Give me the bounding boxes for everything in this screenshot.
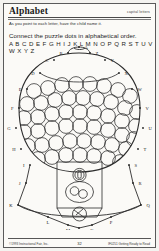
puzzle-dot-g [15, 127, 17, 129]
dot-label-f: F [11, 106, 14, 111]
dot-label-q: Q [147, 203, 151, 208]
puzzle-dot-e [26, 88, 28, 90]
coin-knob [73, 168, 86, 181]
puzzle-dot-w [131, 88, 133, 90]
dot-label-p: P [110, 220, 113, 225]
dot-label-z: Z [96, 51, 99, 56]
dot-label-o: O [90, 228, 94, 231]
puzzle-dot-n [78, 227, 80, 229]
gumball-exit [73, 207, 87, 221]
puzzle-dot-v [139, 107, 141, 109]
dot-label-k: K [9, 203, 13, 208]
puzzle-dot-u [142, 127, 144, 129]
dot-label-h: H [12, 147, 16, 152]
dot-label-j: J [19, 181, 21, 186]
product-code-text: IF0251 Getting Ready to Read [108, 242, 150, 246]
copyright-text: ©1993 Instructional Fair, Inc. [9, 242, 48, 246]
puzzle-dot-b [67, 52, 69, 54]
footer-divider [8, 238, 151, 239]
dot-label-m: M [66, 228, 70, 231]
puzzle-dot-h [20, 148, 22, 150]
puzzle-dot-a [78, 46, 80, 48]
dot-label-d: D [31, 71, 35, 76]
puzzle-dot-i [29, 164, 31, 166]
dot-label-a: A [85, 45, 89, 50]
puzzle-dot-s [128, 164, 130, 166]
puzzle-dot-m [67, 224, 69, 226]
parent-instruction: As you point to each letter, have the ch… [9, 21, 102, 26]
puzzle-dot-q [140, 204, 142, 206]
dot-label-s: S [135, 163, 138, 168]
glass-globe [19, 53, 140, 172]
dot-label-c: C [45, 58, 48, 63]
puzzle-dot-r [132, 182, 134, 184]
puzzle-dot-l [47, 216, 49, 218]
puzzle-dot-k [17, 204, 19, 206]
gumball-machine-illustration: ABZCYDXEWFVGUHTISJRKQLPMNO [0, 44, 159, 230]
page-number: 32 [77, 241, 81, 246]
dot-label-e: E [19, 87, 22, 92]
puzzle-dot-z [89, 52, 91, 54]
dot-label-v: V [146, 106, 150, 111]
puzzle-dot-p [110, 216, 112, 218]
dot-label-u: U [149, 126, 153, 131]
puzzle-dot-j [25, 182, 27, 184]
puzzle-dot-t [137, 148, 139, 150]
dot-label-g: G [7, 126, 11, 131]
corner-label: capital letters [127, 10, 150, 14]
dot-label-l: L [47, 220, 50, 225]
dot-label-i: I [23, 163, 25, 168]
dot-label-r: R [139, 181, 143, 186]
puzzle-svg: ABZCYDXEWFVGUHTISJRKQLPMNO [0, 44, 159, 230]
page-title: Alphabet [9, 6, 48, 16]
puzzle-dot-y [104, 59, 106, 61]
dispense-chute [66, 182, 94, 203]
puzzle-dot-x [118, 72, 120, 74]
gumballs [17, 77, 145, 170]
dot-label-w: W [138, 87, 143, 92]
worksheet-page: Alphabet capital letters As you point to… [0, 0, 159, 251]
dot-label-t: T [144, 147, 147, 152]
dot-label-b: B [59, 51, 62, 56]
puzzle-dot-c [53, 59, 55, 61]
puzzle-dot-f [18, 107, 20, 109]
title-divider-secondary [8, 19, 151, 20]
main-instruction: Connect the puzzle dots in alphabetical … [9, 32, 137, 39]
puzzle-dot-o [91, 224, 93, 226]
puzzle-dot-d [39, 72, 41, 74]
